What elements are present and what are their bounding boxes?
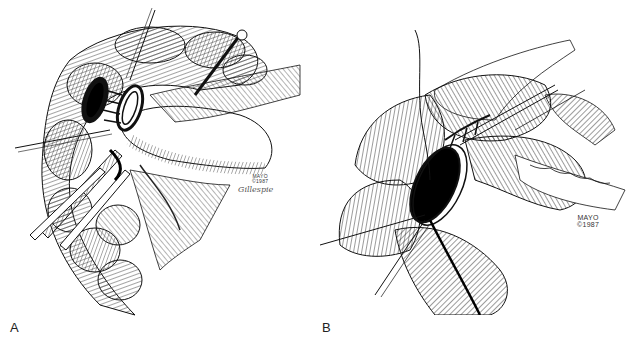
credit-line1: MAYO (577, 214, 599, 221)
panel-a-illustration (0, 0, 320, 320)
credit-line2: ©1987 (577, 221, 599, 228)
panel-b-illustration (315, 30, 635, 315)
credit-mayo-a: MAYO ©1987 (252, 174, 268, 184)
credit-mayo-b: MAYO ©1987 (577, 214, 599, 228)
panel-label-a: A (10, 320, 19, 335)
bowel-anastomosis-drawing (0, 0, 320, 320)
bowel-opening-drawing (315, 30, 635, 315)
credit-line2: ©1987 (252, 179, 268, 184)
panel-label-b: B (322, 320, 331, 335)
artist-signature: Gillespie (238, 185, 273, 194)
